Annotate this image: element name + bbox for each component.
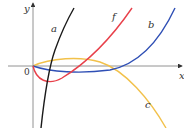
curve-b-label: b (148, 19, 154, 30)
curve-a-label: a (51, 23, 57, 34)
origin-label: 0 (24, 67, 30, 77)
y-axis-label: y (23, 3, 30, 14)
curve-f-label: f (111, 11, 118, 22)
curve-b (33, 8, 175, 72)
curve-c (33, 59, 166, 128)
curve-c-label: c (145, 99, 151, 110)
x-axis-label: x (179, 70, 184, 81)
curve-a (41, 8, 74, 128)
function-graph: y x 0 a f b c (0, 0, 184, 128)
